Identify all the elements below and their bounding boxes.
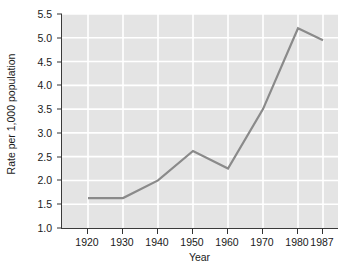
x-axis-tick-mark [122,229,123,234]
x-axis-tick-mark [297,229,298,234]
series-polyline [88,28,323,198]
line-chart: Rate per 1,000 population 1.01.52.02.53.… [0,0,348,275]
y-axis-tick-label: 1.5 [37,198,52,210]
x-axis-tick-label: 1970 [250,236,273,248]
y-axis-tick-label: 2.5 [37,151,52,163]
y-axis-title-text: Rate per 1,000 population [5,54,17,175]
y-axis-tick-label: 4.0 [37,79,52,91]
data-series-line [62,14,338,228]
y-axis-tick-label: 2.0 [37,174,52,186]
x-axis-tick-mark [157,229,158,234]
x-axis-tick-label: 1940 [145,236,168,248]
x-axis-tick-label: 1950 [180,236,203,248]
y-axis-title: Rate per 1,000 population [0,0,22,228]
x-axis-tick-label: 1930 [110,236,133,248]
x-axis-tick-mark [87,229,88,234]
y-axis-tick-label: 3.0 [37,127,52,139]
x-axis-title: Year [61,251,338,263]
x-axis-tick-label: 1920 [75,236,98,248]
y-axis-tick-label: 1.0 [37,222,52,234]
y-axis-tick-label: 5.0 [37,32,52,44]
x-axis-tick-mark [192,229,193,234]
plot-area [62,14,338,228]
x-axis-tick-mark [227,229,228,234]
y-axis-tick-label: 5.5 [37,8,52,20]
x-axis-tick-labels: 19201930194019501960197019801987 [61,236,338,250]
x-axis-tick-mark [262,229,263,234]
x-axis-tick-label: 1980 [285,236,308,248]
x-axis-tick-marks [61,229,338,235]
y-axis-tick-label: 3.5 [37,103,52,115]
x-axis-tick-mark [322,229,323,234]
x-axis-tick-label: 1987 [310,236,333,248]
x-axis-tick-label: 1960 [215,236,238,248]
plot-frame [61,14,338,229]
y-axis-tick-label: 4.5 [37,56,52,68]
y-axis-tick-labels: 1.01.52.02.53.03.54.04.55.05.5 [22,14,56,228]
